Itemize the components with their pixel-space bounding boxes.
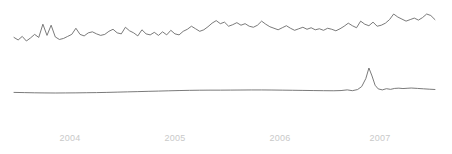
x-axis-tick-2004: 2004 bbox=[60, 133, 81, 143]
x-axis-tick-2005: 2005 bbox=[165, 133, 186, 143]
x-axis-tick-2006: 2006 bbox=[270, 133, 291, 143]
x-axis-tick-2007: 2007 bbox=[370, 133, 391, 143]
upper-series-line bbox=[14, 14, 435, 41]
sparkline-chart: 2004 2005 2006 2007 bbox=[0, 0, 452, 154]
lower-series-line bbox=[14, 68, 435, 93]
chart-plot-area bbox=[0, 0, 452, 154]
